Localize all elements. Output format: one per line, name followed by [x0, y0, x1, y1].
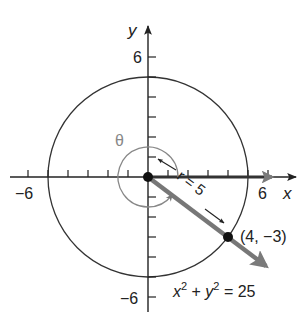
- equation-plus: +: [187, 283, 205, 300]
- equation-rhs: = 25: [219, 283, 255, 300]
- origin-point: [143, 172, 153, 182]
- point-4-neg3: [223, 232, 233, 242]
- y-tick-label-6: 6: [133, 49, 142, 66]
- x-tick-label-neg6: −6: [15, 185, 33, 202]
- y-axis-label: y: [127, 21, 138, 40]
- x-axis-label: x: [282, 184, 292, 203]
- y-tick-label-neg6: −6: [120, 290, 138, 307]
- theta-label: θ: [115, 132, 124, 149]
- y-axis: [148, 26, 156, 312]
- circle-equation: x2 + y2 = 25: [172, 280, 256, 300]
- unit-circle-diagram: y 6 −6 −6 6 x θ r = 5 (4, −3) x2 + y2 = …: [0, 0, 306, 322]
- radius-label: r = 5: [174, 167, 209, 199]
- x-tick-label-6: 6: [258, 185, 267, 202]
- point-label: (4, −3): [240, 228, 287, 245]
- terminal-side-ray: [148, 177, 266, 266]
